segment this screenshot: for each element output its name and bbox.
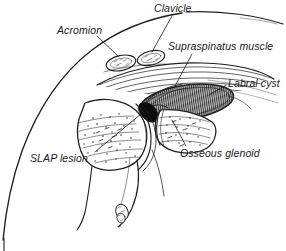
- label-acromion: Acromion: [57, 25, 102, 36]
- shoulder-illustration: [0, 0, 286, 251]
- label-osseous-glenoid: Osseous glenoid: [180, 148, 260, 159]
- label-supraspinatus-muscle: Supraspinatus muscle: [168, 41, 273, 52]
- anatomical-figure: Clavicle Acromion Supraspinatus muscle L…: [0, 0, 286, 251]
- label-labral-cyst: Labral cyst: [228, 78, 280, 89]
- label-slap-lesion: SLAP lesion: [30, 153, 88, 164]
- inferior-nodule-shape: [113, 202, 130, 226]
- label-clavicle: Clavicle: [154, 3, 192, 14]
